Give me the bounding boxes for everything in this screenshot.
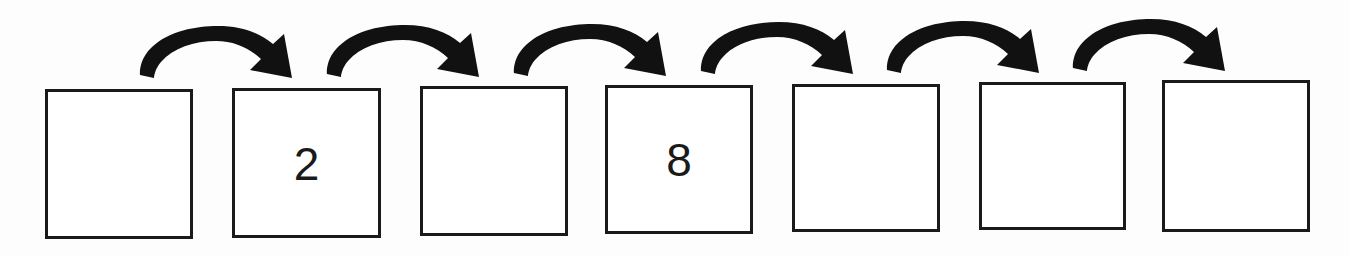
sequence-box-value-2: 2 xyxy=(235,141,378,187)
curved-arrow-shape xyxy=(701,22,853,74)
curved-arrow-shape xyxy=(887,21,1039,73)
number-sequence-worksheet: 28 xyxy=(0,0,1349,256)
curved-arrow-shape xyxy=(514,24,666,76)
sequence-box-4[interactable]: 8 xyxy=(605,85,753,234)
arrows-group xyxy=(140,19,1225,78)
sequence-box-6[interactable] xyxy=(979,82,1126,230)
sequence-box-1[interactable] xyxy=(45,89,193,239)
sequence-box-5[interactable] xyxy=(792,84,940,232)
sequence-box-3[interactable] xyxy=(420,86,568,236)
curved-arrow-icon-3 xyxy=(514,24,666,76)
sequence-box-7[interactable] xyxy=(1162,80,1310,232)
curved-arrow-icon-1 xyxy=(140,26,292,78)
sequence-box-value-4: 8 xyxy=(608,137,750,183)
sequence-box-2[interactable]: 2 xyxy=(232,88,381,238)
curved-arrow-shape xyxy=(140,26,292,78)
curved-arrow-shape xyxy=(1073,19,1225,71)
curved-arrow-shape xyxy=(327,25,479,77)
curved-arrow-icon-5 xyxy=(887,21,1039,73)
curved-arrow-icon-2 xyxy=(327,25,479,77)
curved-arrow-icon-6 xyxy=(1073,19,1225,71)
curved-arrow-icon-4 xyxy=(701,22,853,74)
